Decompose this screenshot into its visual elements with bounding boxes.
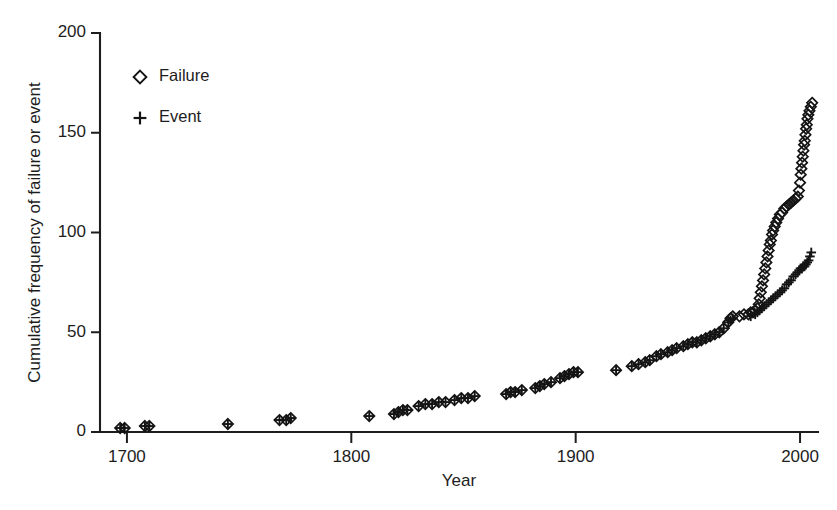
x-tick-label: 1800	[332, 447, 370, 466]
x-tick-label: 1700	[108, 447, 146, 466]
legend-label-event: Event	[159, 107, 202, 125]
data-point-plus	[683, 339, 693, 349]
y-tick-label: 0	[77, 421, 86, 440]
y-axis-title: Cumulative frequency of failure or event	[25, 82, 44, 383]
chart-legend: FailureEvent	[134, 66, 210, 125]
y-tick-label: 50	[67, 322, 86, 341]
data-point-plus	[281, 415, 291, 425]
chart-plot-area: 0501001502001700180019002000YearCumulati…	[0, 0, 837, 510]
series-failure	[115, 98, 817, 434]
legend-marker-failure	[134, 71, 147, 84]
legend-label-failure: Failure	[159, 66, 209, 84]
data-point-plus	[667, 345, 677, 355]
data-point-plus	[223, 419, 233, 429]
data-point-plus	[784, 278, 794, 288]
series-event	[115, 248, 816, 433]
data-point-plus	[364, 411, 374, 421]
y-tick-label: 150	[58, 122, 86, 141]
y-tick-label: 100	[58, 222, 86, 241]
y-tick-label: 200	[58, 22, 86, 41]
data-point-plus	[535, 381, 545, 391]
data-point-plus	[441, 397, 451, 407]
data-point-plus	[286, 413, 296, 423]
x-tick-label: 2000	[781, 447, 819, 466]
data-point-plus	[394, 407, 404, 417]
chart-figure: 0501001502001700180019002000YearCumulati…	[0, 0, 837, 510]
x-tick-label: 1900	[557, 447, 595, 466]
legend-marker-event	[134, 112, 147, 125]
data-point-plus	[501, 389, 511, 399]
data-point-plus	[611, 365, 621, 375]
x-axis-title: Year	[442, 471, 477, 490]
